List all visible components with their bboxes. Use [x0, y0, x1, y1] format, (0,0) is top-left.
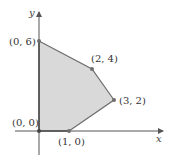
- vertex-label-0-6: (0, 6): [9, 36, 36, 47]
- vertex-label-3-2: (3, 2): [119, 95, 146, 106]
- vertex-point-0-0: [37, 129, 41, 133]
- y-axis-label: y: [28, 7, 35, 18]
- vertex-label-1-0: (1, 0): [58, 136, 85, 147]
- vertex-point-2-4: [90, 67, 94, 71]
- feasible-region-diagram: (0, 0) (1, 0) (3, 2) (2, 4) (0, 6) x y: [0, 0, 172, 166]
- diagram-canvas: (0, 0) (1, 0) (3, 2) (2, 4) (0, 6) x y: [0, 0, 172, 166]
- vertex-point-0-6: [37, 39, 41, 43]
- vertex-point-1-0: [67, 129, 71, 133]
- vertex-label-2-4: (2, 4): [91, 53, 118, 64]
- x-axis-label: x: [156, 133, 162, 144]
- vertex-label-0-0: (0, 0): [12, 117, 39, 128]
- vertex-point-3-2: [112, 98, 116, 102]
